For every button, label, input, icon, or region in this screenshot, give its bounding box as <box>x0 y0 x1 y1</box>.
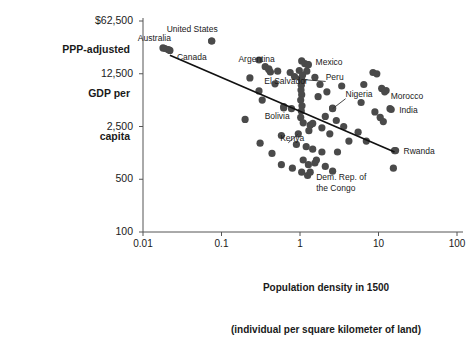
data-point <box>371 108 378 115</box>
data-point <box>333 117 340 124</box>
data-point <box>259 97 266 104</box>
data-point <box>315 93 322 100</box>
data-point-canada <box>166 47 173 54</box>
data-point <box>318 124 325 131</box>
data-point <box>305 161 312 168</box>
data-point <box>345 138 352 145</box>
data-point <box>322 163 329 170</box>
data-point-mexico <box>304 61 311 68</box>
point-label-rwanda: Rwanda <box>404 146 435 156</box>
data-point <box>338 82 345 89</box>
x-axis-title-line-1: Population density in 1500 <box>231 281 421 295</box>
point-label-united-states: United States <box>167 24 218 34</box>
data-point <box>300 119 307 126</box>
data-point <box>309 120 316 127</box>
data-point <box>380 118 387 125</box>
data-point <box>257 140 264 147</box>
data-point-india <box>388 106 395 113</box>
x-axis-tick-label: 10 <box>354 238 404 249</box>
point-label-mexico: Mexico <box>316 57 343 67</box>
x-axis-tick-label: 0.1 <box>197 238 247 249</box>
y-axis-tick-label: 500 <box>73 172 133 184</box>
data-point-argentina <box>265 65 272 72</box>
point-label-argentina: Argentina <box>238 54 274 64</box>
data-point <box>309 146 316 153</box>
x-axis-title-line-2: (individual per square kilometer of land… <box>231 323 421 337</box>
x-axis-tick-label: 100 <box>432 238 476 249</box>
data-point <box>274 68 281 75</box>
y-axis-title: PPP-adjusted GDP per capita <box>62 13 130 173</box>
y-axis-tick-label: 100 <box>73 225 133 237</box>
data-point-united-states <box>208 37 215 44</box>
point-label-kenya: Kenya <box>280 133 304 143</box>
y-axis-title-line-1: PPP-adjusted <box>62 42 130 57</box>
data-point <box>313 156 320 163</box>
data-point <box>360 81 367 88</box>
point-label-canada: Canada <box>177 52 207 62</box>
data-point <box>316 81 323 88</box>
point-label-dem-rep-of-the-congo: Dem. Rep. of the Congo <box>316 172 366 194</box>
y-axis-tick-label: 12,500 <box>73 67 133 79</box>
data-point <box>373 70 380 77</box>
x-axis-tick-label: 0.01 <box>118 238 168 249</box>
data-point <box>289 165 296 172</box>
data-point <box>358 99 365 106</box>
point-label-australia: Australia <box>138 33 171 43</box>
data-point <box>246 74 253 81</box>
point-label-nigeria: Nigeria <box>346 89 373 99</box>
data-point-morocco <box>381 88 388 95</box>
data-point <box>311 74 318 81</box>
point-label-el-salvador: El Salvador <box>264 76 307 86</box>
point-label-bolivia: Bolivia <box>265 111 290 121</box>
x-axis-tick-label: 1 <box>275 238 325 249</box>
data-point <box>326 130 333 137</box>
data-point-dem-rep-of-the-congo <box>307 169 314 176</box>
data-point <box>322 113 329 120</box>
leader-line-nigeria <box>333 99 346 109</box>
data-point <box>323 88 330 95</box>
data-point <box>303 143 310 150</box>
y-axis-tick-label: $62,500 <box>73 14 133 26</box>
data-point <box>268 150 275 157</box>
point-label-india: India <box>399 105 417 115</box>
data-point <box>318 148 325 155</box>
data-point <box>278 161 285 168</box>
data-point <box>305 127 312 134</box>
y-axis-title-line-2: GDP per <box>62 86 130 101</box>
point-label-morocco: Morocco <box>391 91 424 101</box>
y-axis-tick-label: 2,500 <box>73 120 133 132</box>
data-point <box>334 148 341 155</box>
data-point <box>242 116 249 123</box>
x-axis-title: Population density in 1500 (individual p… <box>231 253 421 339</box>
data-point <box>390 165 397 172</box>
point-label-peru: Peru <box>326 72 344 82</box>
